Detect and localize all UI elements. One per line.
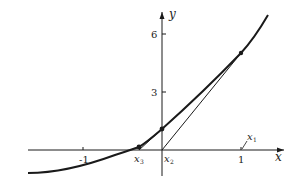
point-at-x2 xyxy=(160,127,165,132)
label-x2: x 2 xyxy=(164,153,174,165)
x-axis-label: x xyxy=(275,150,282,164)
y-axis-label: y xyxy=(168,7,176,21)
function-curve xyxy=(28,15,268,173)
y-tick-label-3: 3 xyxy=(151,87,157,98)
newton-method-diagram: x y -1 1 3 6 x 1 x 2 x 3 xyxy=(0,0,300,190)
x1-leader-line xyxy=(242,141,247,149)
point-at-x3 xyxy=(137,145,142,150)
point-at-x1 xyxy=(239,51,243,55)
svg-text:3: 3 xyxy=(140,158,144,165)
svg-text:2: 2 xyxy=(170,158,174,165)
y-tick-label-6: 6 xyxy=(151,29,157,40)
tangent-from-x1 xyxy=(162,53,241,150)
x-tick-label-minus-1: -1 xyxy=(79,154,89,165)
label-x1: x 1 xyxy=(247,131,257,143)
label-x3: x 3 xyxy=(134,153,144,165)
x-tick-label-1: 1 xyxy=(238,154,244,165)
svg-text:1: 1 xyxy=(253,136,257,143)
tangent-from-x2 xyxy=(139,129,162,150)
